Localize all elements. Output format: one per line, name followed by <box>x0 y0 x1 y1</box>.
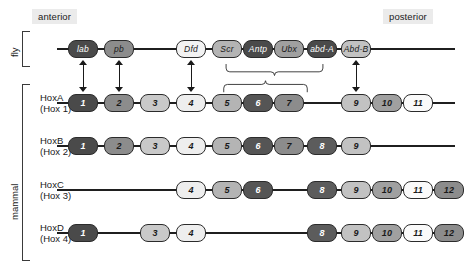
homology-arrow-dfd-hox4 <box>186 60 197 92</box>
gene-hoxc-10[interactable]: 10 <box>372 181 402 199</box>
gene-hoxb-9[interactable]: 9 <box>341 137 371 155</box>
gene-hoxc-4[interactable]: 4 <box>176 181 206 199</box>
gene-hoxd-10[interactable]: 10 <box>372 224 402 242</box>
row-name-secondary: (Hox 2) <box>40 146 71 157</box>
row-name-primary: HoxC <box>40 179 64 190</box>
gene-hoxa-1[interactable]: 1 <box>68 94 98 112</box>
row-name-secondary: (Hox 3) <box>40 190 71 201</box>
gene-hoxb-4[interactable]: 4 <box>176 137 206 155</box>
arrow-head-down-icon <box>79 87 87 92</box>
row-label-hoxd: HoxD(Hox 4) <box>40 222 71 244</box>
homology-arrow-lab-hox1 <box>78 60 89 92</box>
arrow-shaft <box>191 64 193 88</box>
gene-fly-Antp[interactable]: Antp <box>243 40 273 58</box>
gene-hoxd-1[interactable]: 1 <box>68 224 98 242</box>
gene-fly-Scr[interactable]: Scr <box>212 40 242 58</box>
gene-hoxc-12[interactable]: 12 <box>434 181 464 199</box>
gene-hoxd-4[interactable]: 4 <box>176 224 206 242</box>
gene-fly-pb[interactable]: pb <box>104 40 134 58</box>
gene-fly-Ubx[interactable]: Ubx <box>274 40 304 58</box>
homology-brace-fly-scr-abda <box>209 60 340 77</box>
gene-hoxb-2[interactable]: 2 <box>104 137 134 155</box>
row-label-hoxb: HoxB(Hox 2) <box>40 135 71 157</box>
gene-fly-Dfd[interactable]: Dfd <box>176 40 206 58</box>
mammal-group-label: mammal <box>9 184 20 220</box>
homology-brace-hoxa-5-7 <box>209 80 322 97</box>
fly-group-label: fly <box>9 48 20 58</box>
gene-hoxc-6[interactable]: 6 <box>243 181 273 199</box>
arrow-shaft <box>119 64 121 88</box>
gene-hoxa-11[interactable]: 11 <box>403 94 433 112</box>
gene-hoxb-1[interactable]: 1 <box>68 137 98 155</box>
gene-hoxd-12[interactable]: 12 <box>434 224 464 242</box>
gene-hoxa-4[interactable]: 4 <box>176 94 206 112</box>
row-label-hoxa: HoxA(Hox 1) <box>40 92 71 114</box>
gene-hoxc-9[interactable]: 9 <box>341 181 371 199</box>
arrow-head-down-icon <box>115 87 123 92</box>
gene-hoxb-8[interactable]: 8 <box>307 137 337 155</box>
gene-hoxa-2[interactable]: 2 <box>104 94 134 112</box>
row-label-hoxc: HoxC(Hox 3) <box>40 179 71 201</box>
row-name-primary: HoxA <box>40 92 63 103</box>
gene-hoxd-3[interactable]: 3 <box>140 224 170 242</box>
gene-hoxc-8[interactable]: 8 <box>307 181 337 199</box>
hox-cluster-diagram: anterior posterior fly mammal labpbDfdSc… <box>0 0 464 274</box>
gene-fly-lab[interactable]: lab <box>68 40 98 58</box>
gene-hoxc-11[interactable]: 11 <box>403 181 433 199</box>
gene-hoxd-8[interactable]: 8 <box>307 224 337 242</box>
row-name-secondary: (Hox 4) <box>40 233 71 244</box>
gene-hoxb-5[interactable]: 5 <box>212 137 242 155</box>
arrow-head-down-icon <box>352 87 360 92</box>
row-name-primary: HoxB <box>40 135 63 146</box>
fly-group-bracket <box>22 31 30 67</box>
arrow-shaft <box>83 64 85 88</box>
arrow-shaft <box>356 64 358 88</box>
gene-hoxb-3[interactable]: 3 <box>140 137 170 155</box>
gene-fly-AbdB[interactable]: Abd-B <box>341 40 371 58</box>
gene-hoxa-9[interactable]: 9 <box>341 94 371 112</box>
row-name-primary: HoxD <box>40 222 64 233</box>
gene-hoxa-10[interactable]: 10 <box>372 94 402 112</box>
mammal-group-bracket <box>22 84 30 261</box>
arrow-head-down-icon <box>187 87 195 92</box>
gene-hoxd-11[interactable]: 11 <box>403 224 433 242</box>
posterior-label: posterior <box>383 9 433 24</box>
homology-arrow-abdb-hox9 <box>351 60 362 92</box>
homology-arrow-pb-hox2 <box>114 60 125 92</box>
gene-hoxa-3[interactable]: 3 <box>140 94 170 112</box>
gene-fly-abdA[interactable]: abd-A <box>307 40 337 58</box>
gene-hoxb-7[interactable]: 7 <box>274 137 304 155</box>
gene-hoxc-5[interactable]: 5 <box>212 181 242 199</box>
gene-hoxb-6[interactable]: 6 <box>243 137 273 155</box>
row-name-secondary: (Hox 1) <box>40 103 71 114</box>
anterior-label: anterior <box>32 9 77 24</box>
gene-hoxd-9[interactable]: 9 <box>341 224 371 242</box>
